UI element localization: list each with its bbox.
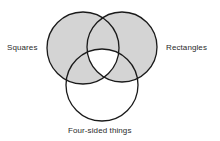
venn-diagram: Squares Rectangles Four-sided things: [0, 0, 220, 141]
label-squares: Squares: [7, 43, 38, 52]
label-four-sided-things: Four-sided things: [68, 126, 132, 135]
shaded-region: [47, 12, 157, 84]
label-rectangles: Rectangles: [166, 43, 207, 52]
venn-canvas: [0, 0, 220, 141]
